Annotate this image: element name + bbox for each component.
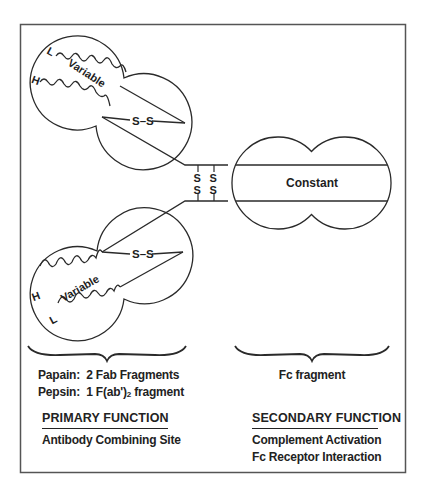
secondary-function-heading: SECONDARY FUNCTION bbox=[252, 410, 378, 429]
lower-ss-line-right bbox=[152, 252, 183, 254]
secondary-function-item-2: Fc Receptor Interaction bbox=[252, 449, 378, 466]
pepsin-value-suffix: fragment bbox=[131, 385, 184, 399]
secondary-function-block: SECONDARY FUNCTION Complement Activation… bbox=[252, 410, 378, 466]
lower-light-chain-label: L bbox=[47, 312, 59, 326]
fc-brace bbox=[235, 346, 389, 361]
lower-heavy-chain-label: H bbox=[30, 289, 42, 303]
lower-variable-label: Variable bbox=[58, 272, 101, 303]
pepsin-label: Pepsin: bbox=[38, 385, 80, 399]
lower-heavy-chain-constant bbox=[102, 201, 228, 252]
hinge-bond-2-top: S bbox=[210, 172, 217, 184]
lower-heavy-chain-variable bbox=[40, 250, 102, 267]
secondary-function-item-1: Complement Activation bbox=[252, 432, 378, 449]
papain-line: Papain: 2 Fab Fragments bbox=[38, 367, 179, 384]
lower-disulfide-label: S–S bbox=[132, 248, 154, 260]
lower-fab bbox=[30, 201, 228, 341]
fc-fragment-label: Fc fragment bbox=[232, 367, 392, 384]
papain-label: Papain: bbox=[38, 368, 80, 382]
upper-heavy-chain-label: H bbox=[30, 73, 42, 87]
upper-disulfide-label: S–S bbox=[132, 115, 154, 127]
lower-ss-line-left bbox=[102, 252, 130, 254]
primary-function-item: Antibody Combining Site bbox=[42, 432, 168, 449]
primary-function-block: PRIMARY FUNCTION Antibody Combining Site bbox=[42, 410, 168, 449]
pepsin-value-prefix: 1 F(ab') bbox=[86, 385, 127, 399]
upper-fab bbox=[30, 36, 228, 170]
outer-frame bbox=[21, 25, 406, 473]
fc-constant-label: Constant bbox=[286, 176, 338, 190]
fab-brace bbox=[28, 346, 186, 361]
upper-ss-line-right bbox=[152, 121, 185, 123]
hinge-bond-1-top: S bbox=[194, 172, 201, 184]
papain-value: 2 Fab Fragments bbox=[86, 368, 179, 382]
pepsin-line: Pepsin: 1 F(ab')2 fragment bbox=[38, 384, 184, 403]
hinge-bond-2-bottom: S bbox=[210, 184, 217, 196]
upper-heavy-chain-constant bbox=[102, 117, 228, 165]
upper-fab-outline bbox=[30, 36, 192, 170]
hinge-bond-1-bottom: S bbox=[194, 184, 201, 196]
primary-function-heading: PRIMARY FUNCTION bbox=[42, 410, 168, 429]
